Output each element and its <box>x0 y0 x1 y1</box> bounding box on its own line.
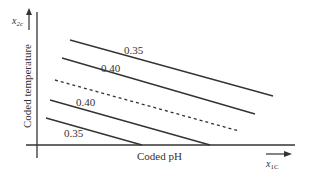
y-axis-title: Coded temperature <box>21 44 33 128</box>
x-arrowhead-icon <box>284 151 292 157</box>
x-axis-title: Coded pH <box>137 150 182 162</box>
y-arrowhead-icon <box>26 8 32 15</box>
contour-chart: 0.35 0.40 0.40 0.35 Coded pH Coded tempe… <box>0 0 309 173</box>
contour-label-upper-035: 0.35 <box>124 44 144 56</box>
contour-label-lower-040: 0.40 <box>76 96 96 108</box>
contour-label-lower-035: 0.35 <box>64 127 84 139</box>
y-axis-symbol: x2c <box>11 15 24 28</box>
x-axis-symbol: x1C <box>265 158 279 171</box>
contour-label-upper-040: 0.40 <box>101 62 121 74</box>
